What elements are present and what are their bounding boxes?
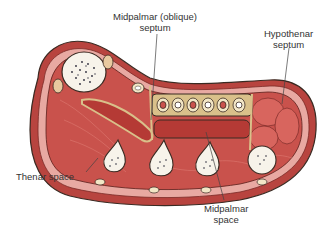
sesamoid-left	[53, 79, 63, 93]
sesamoid-right	[103, 55, 113, 69]
label-hypothenar-septum: Hypothenar septum	[264, 28, 313, 50]
midpalmar-space-region	[154, 120, 250, 138]
metacarpal-5	[248, 146, 276, 174]
thumb-metacarpal-bone	[62, 52, 106, 92]
palm-cross-section-diagram: Midpalmar (oblique) septum Hypothenar se…	[0, 0, 329, 239]
label-midpalmar-septum: Midpalmar (oblique) septum	[113, 11, 197, 33]
label-thenar-space: Thenar space	[16, 171, 74, 182]
label-midpalmar-space: Midpalmar space	[204, 203, 248, 225]
